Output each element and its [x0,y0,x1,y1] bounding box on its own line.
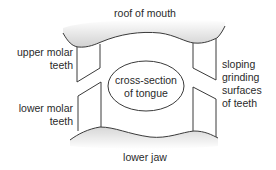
right-lower-molar [193,87,216,137]
label-roof-of-mouth-text: roof of mouth [114,7,176,19]
label-sloping-line1: sloping [222,58,276,71]
label-sloping-line3: surfaces [222,84,276,97]
right-upper-molar [193,39,216,80]
label-sloping-line2: grinding [222,71,276,84]
lower-jaw-shape [70,127,218,149]
label-lower-jaw: lower jaw [110,151,180,164]
roof-of-mouth-shape [63,20,225,48]
label-upper-molar-teeth: upper molar teeth [0,46,73,72]
label-tongue: cross-section of tongue [108,74,184,100]
label-sloping-grinding-surfaces: sloping grinding surfaces of teeth [222,58,276,110]
label-upper-molar-line2: teeth [0,59,73,72]
label-lower-jaw-text: lower jaw [123,151,167,163]
label-tongue-line1: cross-section [108,74,184,87]
label-lower-molar-line2: teeth [0,115,73,128]
left-upper-molar [77,44,100,82]
label-lower-molar-line1: lower molar [0,102,73,115]
label-lower-molar-teeth: lower molar teeth [0,102,73,128]
label-tongue-line2: of tongue [108,87,184,100]
label-upper-molar-line1: upper molar [0,46,73,59]
left-lower-molar [78,82,101,131]
label-sloping-line4: of teeth [222,97,276,110]
label-roof-of-mouth: roof of mouth [100,7,190,20]
